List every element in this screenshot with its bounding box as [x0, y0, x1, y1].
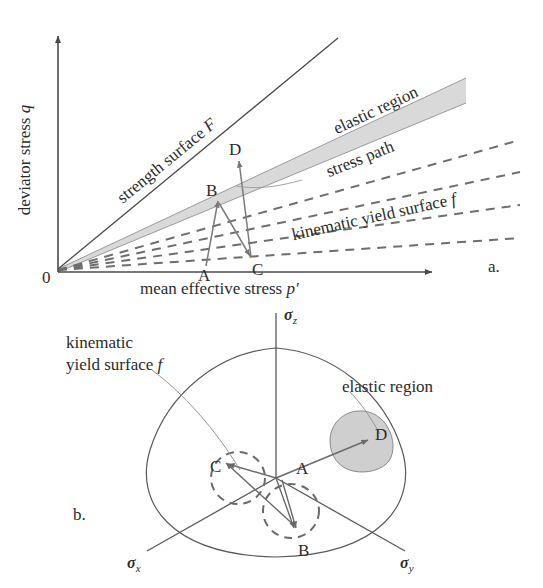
arrow-b-to-c: [226, 463, 296, 527]
point-label-d: D: [229, 140, 241, 159]
point-label-b-d: D: [375, 425, 387, 444]
point-label-b-c: C: [210, 457, 221, 476]
point-label-b: B: [206, 181, 217, 200]
origin-label: 0: [42, 268, 51, 287]
y-axis-label-text: deviator stress: [15, 113, 34, 215]
sigma-z-label: σz: [284, 306, 298, 326]
y-axis-label-symbol: q: [15, 104, 34, 113]
point-label-c: C: [252, 260, 263, 279]
stress-path-segment-ab: [206, 201, 218, 266]
sigma-y-axis: [276, 478, 405, 551]
panel-a-tag: a.: [488, 257, 500, 276]
figure-container: A B C D 0 deviator stress q mean effecti…: [0, 0, 543, 588]
sigma-x-label: σx: [127, 554, 141, 574]
y-axis-label: deviator stress q: [15, 104, 34, 215]
sigma-y-subscript: y: [408, 562, 414, 574]
kinematic-yield-label-b-line1: kinematic: [66, 333, 133, 352]
sigma-x-subscript: x: [135, 562, 141, 574]
panel-a: A B C D 0 deviator stress q mean effecti…: [15, 36, 520, 298]
panel-b: σz σx σy kinematic yield surface f elast…: [66, 306, 434, 574]
strength-surface-label: strength surface F: [113, 114, 220, 207]
x-axis-label-symbol: p′: [285, 279, 299, 298]
point-label-b-b: B: [298, 541, 309, 560]
point-label-b-a: A: [296, 459, 309, 478]
stress-path-segment-cd: [239, 161, 251, 257]
x-axis-label: mean effective stress p′: [140, 279, 299, 298]
kinematic-yield-label-b-line2: yield surface f: [66, 355, 165, 374]
stress-path: [206, 161, 251, 266]
arrow-to-b: [276, 478, 294, 528]
sigma-x-axis: [147, 478, 276, 551]
sigma-y-label: σy: [400, 554, 414, 574]
kinematic-yield-label-b-text: yield surface: [66, 355, 158, 374]
elastic-region-label-b: elastic region: [342, 377, 434, 396]
x-axis-label-text: mean effective stress: [140, 279, 286, 298]
panel-b-tag: b.: [73, 505, 86, 524]
strength-surface-label-text: strength surface: [113, 121, 212, 207]
sigma-z-subscript: z: [292, 314, 298, 326]
figure-svg: A B C D 0 deviator stress q mean effecti…: [0, 0, 543, 588]
kinematic-yield-label-b-symbol: f: [158, 355, 165, 374]
